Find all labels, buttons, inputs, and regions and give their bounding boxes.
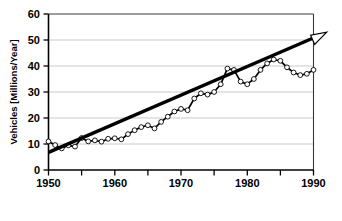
data-point-marker [238, 79, 243, 84]
data-point-marker [271, 57, 276, 62]
data-point-marker [132, 128, 137, 133]
data-point-marker [311, 68, 316, 73]
chart-figure: 60 50 40 30 20 10 0 1950 1960 1970 1980 … [0, 0, 342, 221]
y-tick-label-30: 30 [28, 86, 40, 98]
data-point-marker [205, 92, 210, 97]
y-tick-label-0: 0 [34, 164, 40, 176]
data-point-marker [172, 109, 177, 114]
data-point-marker [218, 82, 223, 87]
data-point-marker [304, 71, 309, 76]
data-point-marker [285, 65, 290, 70]
data-point-marker [265, 61, 270, 66]
data-point-marker [99, 139, 104, 144]
vehicles-per-year-line-chart: 60 50 40 30 20 10 0 1950 1960 1970 1980 … [0, 0, 342, 221]
y-tick-label-20: 20 [28, 112, 40, 124]
data-point-marker [185, 108, 190, 113]
data-point-marker [152, 126, 157, 131]
data-point-marker [291, 70, 296, 75]
data-point-marker [245, 82, 250, 87]
data-point-marker [119, 137, 124, 142]
x-tick-label-1970: 1970 [169, 177, 193, 189]
data-point-marker [179, 107, 184, 112]
data-point-marker [106, 136, 111, 141]
data-point-marker [192, 96, 197, 101]
x-tick-label-1980: 1980 [235, 177, 259, 189]
data-point-marker [258, 68, 263, 73]
data-point-marker [159, 120, 164, 125]
x-tick-label-1950: 1950 [36, 177, 60, 189]
data-point-marker [165, 114, 170, 119]
data-point-marker [112, 136, 117, 141]
data-point-marker [225, 66, 230, 71]
data-point-marker [212, 90, 217, 95]
data-point-marker [251, 77, 256, 82]
x-tick-label-1990: 1990 [301, 177, 325, 189]
y-tick-label-40: 40 [28, 60, 40, 72]
data-point-marker [139, 125, 144, 130]
x-tick-label-1960: 1960 [103, 177, 127, 189]
data-point-marker [53, 143, 58, 148]
data-point-marker [126, 132, 131, 137]
y-tick-label-50: 50 [28, 34, 40, 46]
data-point-marker [198, 91, 203, 96]
y-tick-label-60: 60 [28, 8, 40, 20]
data-point-marker [145, 123, 150, 128]
data-point-marker [86, 139, 91, 144]
data-point-marker [278, 58, 283, 63]
data-point-marker [73, 144, 78, 149]
data-point-marker [46, 139, 51, 144]
data-point-marker [298, 73, 303, 78]
data-point-marker [92, 138, 97, 143]
y-tick-label-10: 10 [28, 138, 40, 150]
y-axis-title: Vehicles [Millions/Year] [8, 39, 19, 144]
